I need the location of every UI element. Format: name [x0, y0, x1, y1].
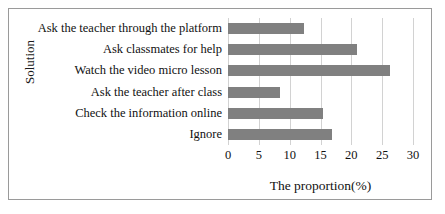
bar-row: Ask the teacher after class: [228, 82, 413, 103]
bar: [228, 108, 323, 119]
x-tick-label: 25: [376, 148, 389, 163]
bar: [228, 44, 357, 55]
category-label: Check the information online: [75, 105, 222, 122]
plot-area: Ask the teacher through the platformAsk …: [228, 18, 413, 145]
x-tick-label: 20: [345, 148, 358, 163]
bar-row: Watch the video micro lesson: [228, 60, 413, 81]
bar: [228, 129, 332, 140]
bar: [228, 23, 304, 34]
bar-row: Ask classmates for help: [228, 39, 413, 60]
bar-row: Check the information online: [228, 103, 413, 124]
bar: [228, 65, 390, 76]
x-gridline: [413, 18, 414, 145]
x-tick-label: 5: [256, 148, 262, 163]
category-label: Watch the video micro lesson: [74, 62, 222, 79]
x-tick-label: 15: [314, 148, 327, 163]
bar-row: Ignore: [228, 124, 413, 145]
bar: [228, 87, 280, 98]
category-label: Ask the teacher after class: [91, 84, 222, 101]
category-label: Ask the teacher through the platform: [38, 20, 222, 37]
x-tick-label: 10: [283, 148, 296, 163]
bar-chart-figure: Solution Ask the teacher through the pla…: [0, 0, 445, 214]
x-axis-title: The proportion(%): [228, 178, 413, 194]
x-tick-label: 0: [225, 148, 231, 163]
y-axis-title: Solution: [22, 22, 38, 102]
category-label: Ignore: [189, 126, 222, 143]
x-tick-label: 30: [407, 148, 420, 163]
category-label: Ask classmates for help: [103, 41, 222, 58]
bar-row: Ask the teacher through the platform: [228, 18, 413, 39]
